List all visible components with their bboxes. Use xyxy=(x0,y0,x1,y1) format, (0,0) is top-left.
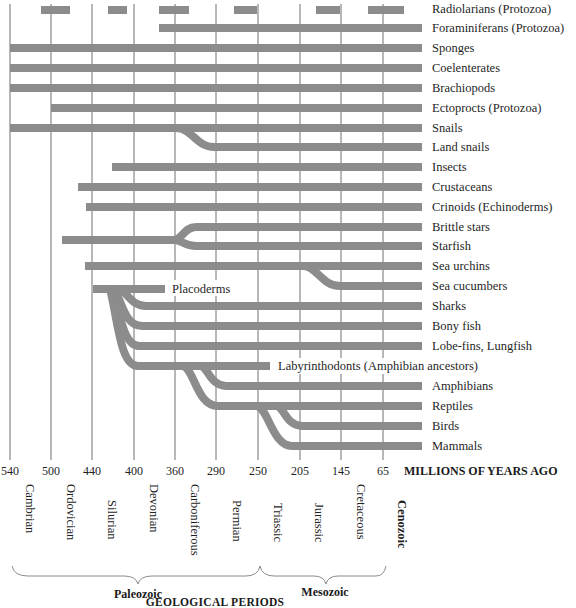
bar-crustaceans xyxy=(78,183,422,191)
period-jurassic: Jurassic xyxy=(312,503,326,543)
bar-sponges xyxy=(10,44,422,52)
bar-brittle-stars xyxy=(174,227,422,240)
period-permian: Permian xyxy=(230,500,244,542)
era-mesozoic: Mesozoic xyxy=(301,585,349,599)
tick-205: 205 xyxy=(291,464,309,478)
label-starfish: Starfish xyxy=(432,239,472,253)
label-lobe-fins: Lobe-fins, Lungfish xyxy=(432,339,533,353)
period-triassic: Triassic xyxy=(271,503,285,543)
label-radiolarians: Radiolarians (Protozoa) xyxy=(432,2,551,16)
label-amphibians: Amphibians xyxy=(432,379,493,393)
bar-radiolarians-5 xyxy=(316,6,340,14)
bar-brachiopods xyxy=(10,84,422,92)
tick-440: 440 xyxy=(83,464,101,478)
bar-lobe-fins xyxy=(112,289,422,346)
label-crustaceans: Crustaceans xyxy=(432,180,493,194)
bar-starfish xyxy=(174,240,422,246)
tick-290: 290 xyxy=(207,464,225,478)
label-sharks: Sharks xyxy=(432,299,466,313)
tick-65: 65 xyxy=(377,464,389,478)
period-cambrian: Cambrian xyxy=(23,484,37,534)
bar-ectoprocts xyxy=(51,104,422,112)
bar-radiolarians-2 xyxy=(108,6,127,14)
tick-360: 360 xyxy=(166,464,184,478)
footer-geological-periods: GEOLOGICAL PERIODS xyxy=(146,596,285,608)
period-ordovician: Ordovician xyxy=(64,484,78,541)
label-brachiopods: Brachiopods xyxy=(432,81,495,95)
tick-540: 540 xyxy=(1,464,19,478)
label-insects: Insects xyxy=(432,160,467,174)
bar-radiolarians-3 xyxy=(159,6,189,14)
label-foraminiferans: Foraminiferans (Protozoa) xyxy=(432,21,564,35)
label-ectoprocts: Ectoprocts (Protozoa) xyxy=(432,101,541,115)
label-placoderms: Placoderms xyxy=(172,282,230,296)
bar-foraminiferans xyxy=(159,24,422,32)
label-brittle-stars: Brittle stars xyxy=(432,220,490,234)
label-sea-cucumbers: Sea cucumbers xyxy=(432,279,507,293)
bar-sea-urchins xyxy=(85,262,422,270)
period-silurian: Silurian xyxy=(105,500,119,540)
period-cenozoic: Cenozoic xyxy=(395,500,409,549)
tick-400: 400 xyxy=(125,464,143,478)
label-land-snails: Land snails xyxy=(432,140,489,154)
axis-title: MILLIONS OF YEARS AGO xyxy=(404,464,557,478)
era-braces: Paleozoic Mesozoic GEOLOGICAL PERIODS xyxy=(12,566,386,608)
label-bony-fish: Bony fish xyxy=(432,319,482,333)
bar-radiolarians-6 xyxy=(368,6,404,14)
bar-radiolarians-1 xyxy=(41,6,70,14)
label-reptiles: Reptiles xyxy=(432,399,473,413)
mesozoic-brace xyxy=(260,566,386,584)
tick-500: 500 xyxy=(42,464,60,478)
bar-snails xyxy=(10,124,422,132)
period-carboniferous: Carboniferous xyxy=(188,484,202,556)
bar-insects xyxy=(112,163,422,171)
tick-145: 145 xyxy=(332,464,350,478)
label-mammals: Mammals xyxy=(432,439,482,453)
bar-starfish-stem xyxy=(62,236,176,244)
paleozoic-brace xyxy=(12,566,260,584)
label-sponges: Sponges xyxy=(432,41,475,55)
bar-coelenterates xyxy=(10,64,422,72)
label-crinoids: Crinoids (Echinoderms) xyxy=(432,200,552,214)
bar-radiolarians-4 xyxy=(234,6,257,14)
label-coelenterates: Coelenterates xyxy=(432,61,500,75)
bars xyxy=(10,6,422,446)
x-axis: 540 500 440 400 360 290 250 205 145 65 M… xyxy=(1,464,557,478)
label-snails: Snails xyxy=(432,121,463,135)
label-labyrinthodonts: Labyrinthodonts (Amphibian ancestors) xyxy=(278,359,478,373)
evolution-timeline-chart: Radiolarians (Protozoa) Foraminiferans (… xyxy=(0,0,576,608)
period-labels: Cambrian Ordovician Silurian Devonian Ca… xyxy=(23,484,409,556)
tick-250: 250 xyxy=(249,464,267,478)
period-devonian: Devonian xyxy=(147,484,161,533)
label-birds: Birds xyxy=(432,419,459,433)
label-sea-urchins: Sea urchins xyxy=(432,259,490,273)
period-cretaceous: Cretaceous xyxy=(354,484,368,540)
bar-crinoids xyxy=(86,203,422,211)
